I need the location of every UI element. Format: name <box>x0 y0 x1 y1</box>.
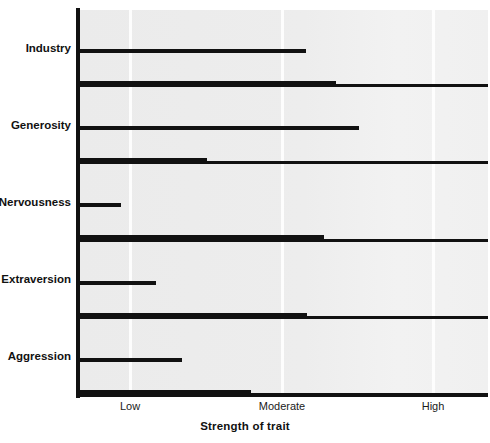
y-axis-label-aggression: Aggression <box>8 350 71 362</box>
x-axis-title: Strength of trait <box>0 420 490 432</box>
y-axis-line <box>76 8 80 398</box>
gridline-high <box>432 10 435 394</box>
bar <box>79 178 121 203</box>
bar-baseline-shadow <box>79 81 336 85</box>
bar-baseline-shadow <box>79 358 182 362</box>
bar-baseline-shadow <box>79 313 307 317</box>
bar-baseline-shadow <box>79 126 359 130</box>
bar <box>79 256 156 281</box>
bar-baseline-shadow <box>79 203 121 207</box>
y-axis-category-labels: IndustryGenerosityNervousnessExtraversio… <box>0 0 74 443</box>
bar-baseline-shadow <box>79 235 324 239</box>
bar <box>79 333 182 358</box>
bar <box>79 24 306 49</box>
y-axis-label-industry: Industry <box>26 42 71 54</box>
bar <box>79 56 336 81</box>
bar-baseline-shadow <box>79 281 156 285</box>
y-axis-label-extraversion: Extraversion <box>1 273 71 285</box>
bar <box>79 101 359 126</box>
x-tick-label-moderate: Moderate <box>259 400 305 412</box>
bar <box>79 133 207 158</box>
bar-baseline-shadow <box>79 158 207 162</box>
x-tick-label-low: Low <box>120 400 140 412</box>
x-tick-label-high: High <box>422 400 445 412</box>
y-axis-label-generosity: Generosity <box>11 119 71 131</box>
bar <box>79 288 307 313</box>
bar <box>79 210 324 235</box>
horizontal-bar-chart: IndustryGenerosityNervousnessExtraversio… <box>0 0 490 443</box>
bar-baseline-shadow <box>79 49 306 53</box>
x-axis-line <box>76 393 488 397</box>
bar <box>79 365 251 390</box>
y-axis-label-nervousness: Nervousness <box>0 196 71 208</box>
